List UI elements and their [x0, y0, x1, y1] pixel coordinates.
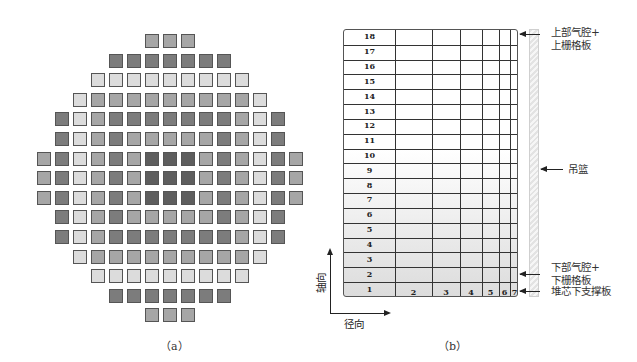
fuel-assembly: [127, 171, 141, 185]
fuel-assembly: [271, 210, 285, 224]
axial-level-label: 9: [344, 165, 395, 175]
fuel-assembly: [55, 171, 69, 185]
fuel-assembly: [271, 112, 285, 126]
fuel-assembly: [217, 191, 231, 205]
fuel-assembly: [199, 93, 213, 107]
fuel-assembly: [271, 191, 285, 205]
fuel-assembly: [145, 191, 159, 205]
axial-level-label: 7: [344, 194, 395, 204]
fuel-assembly: [181, 54, 195, 68]
fuel-assembly: [55, 132, 69, 146]
fuel-assembly: [199, 269, 213, 283]
axial-level-label: 6: [344, 209, 395, 219]
fuel-assembly: [199, 73, 213, 87]
fuel-assembly: [91, 250, 105, 264]
fuel-assembly: [145, 112, 159, 126]
label-upper-plenum: 上部气腔+: [551, 26, 600, 39]
fuel-assembly: [109, 73, 123, 87]
fuel-assembly: [235, 132, 249, 146]
fuel-assembly: [109, 210, 123, 224]
fuel-assembly: [55, 152, 69, 166]
fuel-assembly: [181, 308, 195, 322]
axial-level-label: 17: [344, 46, 395, 56]
fuel-assembly: [109, 191, 123, 205]
fuel-assembly: [253, 171, 267, 185]
fuel-assembly: [73, 171, 87, 185]
fuel-assembly: [253, 191, 267, 205]
fuel-assembly: [163, 210, 177, 224]
fuel-assembly: [217, 171, 231, 185]
fuel-assembly: [217, 289, 231, 303]
fuel-assembly: [163, 112, 177, 126]
core-basket-wall: [529, 29, 539, 297]
fuel-assembly: [163, 73, 177, 87]
fuel-assembly: [181, 250, 195, 264]
fuel-assembly: [181, 210, 195, 224]
fuel-assembly: [109, 250, 123, 264]
fuel-assembly: [271, 171, 285, 185]
fuel-assembly: [181, 289, 195, 303]
label-basket: 吊篮: [568, 163, 588, 176]
fuel-assembly: [127, 54, 141, 68]
fuel-assembly: [109, 112, 123, 126]
fuel-assembly: [163, 269, 177, 283]
fuel-assembly: [145, 132, 159, 146]
axial-level-label: 18: [344, 31, 395, 41]
fuel-assembly: [127, 132, 141, 146]
fuel-assembly: [199, 132, 213, 146]
fuel-assembly: [127, 112, 141, 126]
radial-axis-label: 径向: [344, 316, 364, 331]
fuel-assembly: [181, 132, 195, 146]
fuel-assembly: [145, 54, 159, 68]
fuel-assembly: [217, 73, 231, 87]
fuel-assembly: [199, 171, 213, 185]
fuel-assembly: [91, 112, 105, 126]
fuel-assembly: [235, 250, 249, 264]
fuel-assembly: [145, 230, 159, 244]
axial-level-label: 3: [344, 254, 395, 264]
fuel-assembly: [271, 152, 285, 166]
fuel-assembly: [199, 210, 213, 224]
axial-level-label: 15: [344, 76, 395, 86]
fuel-assembly: [217, 112, 231, 126]
fuel-assembly: [253, 210, 267, 224]
label-support-plate: 堆芯下支撑板: [551, 285, 611, 298]
axial-radial-mesh-grid: 181716151413121110987654321234567: [343, 29, 518, 297]
fuel-assembly: [127, 269, 141, 283]
fuel-assembly: [253, 93, 267, 107]
fuel-assembly: [91, 230, 105, 244]
fuel-assembly: [181, 34, 195, 48]
fuel-assembly: [253, 230, 267, 244]
fuel-assembly: [163, 191, 177, 205]
fuel-assembly: [235, 191, 249, 205]
radial-ring-label: 2: [395, 287, 432, 297]
fuel-assembly: [145, 73, 159, 87]
axial-level-label: 8: [344, 180, 395, 190]
axial-level-label: 13: [344, 106, 395, 116]
axial-axis-arrow: [330, 254, 331, 314]
fuel-assembly: [55, 112, 69, 126]
radial-ring-label: 3: [432, 287, 460, 297]
fuel-assembly: [145, 171, 159, 185]
fuel-assembly: [91, 93, 105, 107]
fuel-assembly: [91, 73, 105, 87]
fuel-assembly: [73, 152, 87, 166]
fuel-assembly: [235, 269, 249, 283]
fuel-assembly: [163, 152, 177, 166]
fuel-assembly: [91, 152, 105, 166]
arrow-lower-plenum: [520, 274, 540, 275]
fuel-assembly: [127, 152, 141, 166]
fuel-assembly: [181, 171, 195, 185]
radial-ring-label: 4: [460, 287, 482, 297]
fuel-assembly: [235, 210, 249, 224]
fuel-assembly: [235, 112, 249, 126]
fuel-assembly: [73, 132, 87, 146]
fuel-assembly: [145, 250, 159, 264]
fuel-assembly: [145, 269, 159, 283]
radial-axis-arrow: [330, 313, 385, 314]
fuel-assembly: [253, 132, 267, 146]
fuel-assembly: [73, 250, 87, 264]
fuel-assembly: [55, 210, 69, 224]
fuel-assembly: [199, 250, 213, 264]
fuel-assembly: [235, 152, 249, 166]
